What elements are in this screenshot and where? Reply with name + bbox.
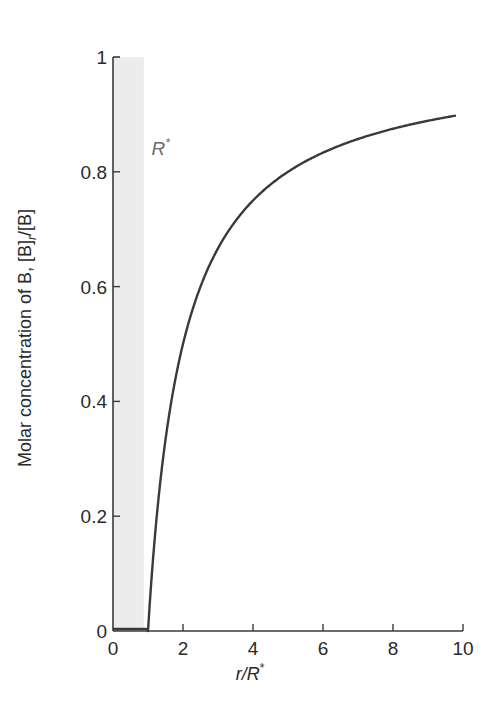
y-tick-label: 1 — [96, 47, 107, 68]
r-star-annotation: R* — [152, 136, 171, 159]
x-tick-label: 10 — [452, 638, 473, 659]
x-tick-label: 0 — [108, 638, 119, 659]
x-tick-label: 4 — [248, 638, 259, 659]
x-tick-label: 8 — [388, 638, 399, 659]
y-tick-label: 0.2 — [81, 506, 107, 527]
x-tick-label: 6 — [318, 638, 329, 659]
y-tick-label: 0.4 — [81, 391, 108, 412]
x-tick-label: 2 — [178, 638, 189, 659]
chart: 00.20.40.60.810246810 R* r/R* Molar conc… — [0, 0, 486, 722]
x-axis-title: r/R* — [236, 661, 265, 684]
y-tick-label: 0 — [96, 621, 107, 642]
y-tick-label: 0.6 — [81, 277, 107, 298]
y-tick-label: 0.8 — [81, 162, 107, 183]
concentration-curve — [113, 116, 456, 631]
shaded-region-r-star — [113, 57, 144, 631]
y-axis-title: Molar concentration of B, [B]r/[B] — [15, 209, 39, 467]
